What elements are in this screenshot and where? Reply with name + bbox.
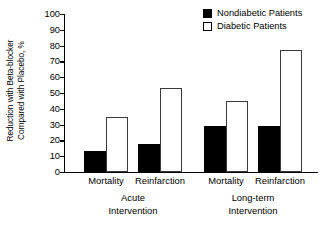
y-tick-label: 70 <box>34 56 60 67</box>
bar <box>160 88 182 172</box>
legend-swatch-icon <box>203 22 212 31</box>
x-tick-label: Reinfarction <box>135 175 185 187</box>
legend-label: Diabetic Patients <box>217 21 287 32</box>
bar <box>106 117 128 172</box>
y-tick-label: 100 <box>34 9 60 20</box>
y-tick-label: 50 <box>34 88 60 99</box>
y-tick-label: 80 <box>34 40 60 51</box>
bars-layer <box>64 14 318 172</box>
x-tick-label: Mortality <box>88 175 123 187</box>
x-axis-category-labels: MortalityReinfarctionMortalityReinfarcti… <box>64 175 318 189</box>
y-axis-tick-labels: 1009080706050403020100 <box>34 8 60 174</box>
y-tick-label: 60 <box>34 72 60 83</box>
x-axis-group-label-line-1: Long-term <box>229 192 278 205</box>
x-axis-group-label-line-2: Intervention <box>109 205 158 218</box>
x-axis-line <box>64 172 318 173</box>
bar <box>280 50 302 172</box>
y-tick-label: 10 <box>34 151 60 162</box>
bar <box>226 101 248 172</box>
legend: Nondiabetic PatientsDiabetic Patients <box>203 7 302 33</box>
x-tick-label: Mortality <box>208 175 243 187</box>
y-tick-label: 30 <box>34 119 60 130</box>
y-axis-title-line-2: Compared with Placebo, % <box>17 39 28 141</box>
legend-item: Nondiabetic Patients <box>203 7 302 20</box>
y-tick-mark <box>60 172 64 173</box>
y-tick-label: 90 <box>34 24 60 35</box>
x-tick-label: Reinfarction <box>255 175 305 187</box>
y-tick-label: 20 <box>34 135 60 146</box>
bar <box>84 151 106 172</box>
y-axis-title: Reduction with Beta-blocker Compared wit… <box>0 0 34 180</box>
legend-swatch-icon <box>203 9 212 18</box>
x-axis-group-label: Long-termIntervention <box>229 192 278 217</box>
plot-area <box>64 14 318 172</box>
bar <box>258 126 280 172</box>
x-axis-group-label-line-2: Intervention <box>229 205 278 218</box>
bar <box>138 144 160 172</box>
x-axis-group-label: AcuteIntervention <box>109 192 158 217</box>
legend-label: Nondiabetic Patients <box>217 8 302 19</box>
x-axis-group-labels: AcuteInterventionLong-termIntervention <box>64 192 318 226</box>
x-axis-group-label-line-1: Acute <box>109 192 158 205</box>
y-tick-label: 40 <box>34 103 60 114</box>
y-tick-label: 0 <box>34 167 60 178</box>
bar-chart: Reduction with Beta-blocker Compared wit… <box>0 0 332 231</box>
bar <box>204 126 226 172</box>
y-axis-title-line-1: Reduction with Beta-blocker <box>7 39 18 141</box>
legend-item: Diabetic Patients <box>203 20 302 33</box>
